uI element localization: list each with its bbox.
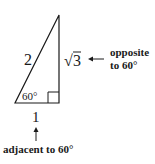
hypotenuse-label: 2 <box>24 51 32 68</box>
left-arrow-icon <box>88 57 93 62</box>
adjacent-label: 1 <box>32 109 40 125</box>
right-angle-marker <box>48 92 59 103</box>
opposite-label: 3 <box>73 52 81 69</box>
adjacent-caption: adjacent to 60° <box>3 143 73 155</box>
opposite-radical-sign: √ <box>64 52 73 69</box>
angle-label: 60° <box>22 90 37 102</box>
opposite-caption-line1: opposite <box>110 46 149 58</box>
up-arrow-icon <box>34 127 39 132</box>
triangle-diagram: 2 60° √ 3 opposite to 60° 1 adjacent to … <box>0 0 155 164</box>
opposite-caption-line2: to 60° <box>110 59 137 71</box>
